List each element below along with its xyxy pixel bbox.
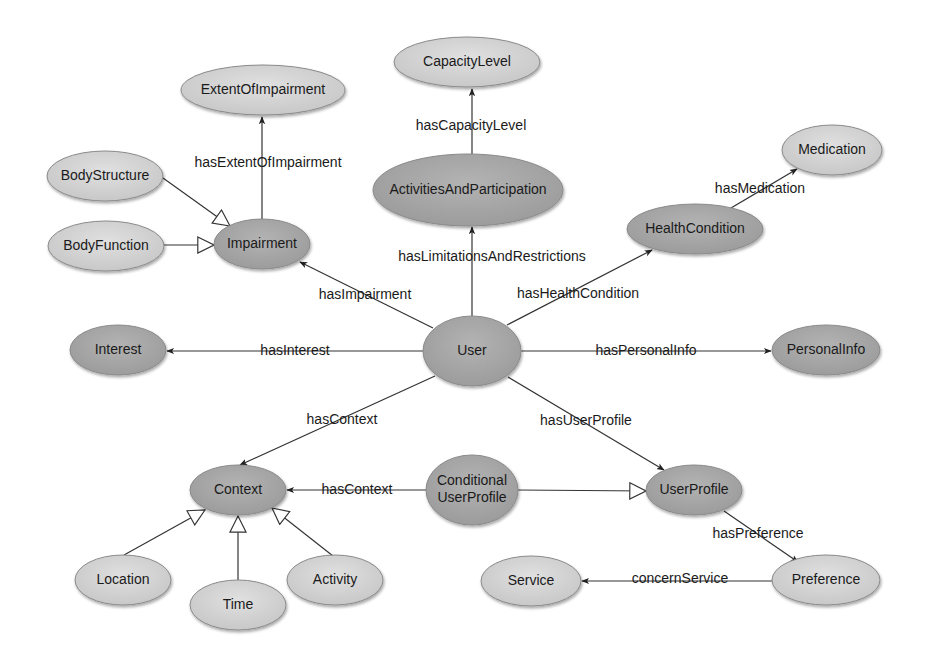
node-label: HealthCondition xyxy=(645,220,745,236)
edge-label: hasMedication xyxy=(715,180,805,196)
node-label: Activity xyxy=(313,571,357,587)
node-label: BodyStructure xyxy=(61,167,150,183)
node-capacity-level[interactable]: CapacityLevel xyxy=(394,37,540,87)
edge-body-structure-to-impairment xyxy=(163,178,230,226)
node-label: Context xyxy=(214,481,262,497)
node-user-profile[interactable]: UserProfile xyxy=(646,465,742,515)
edge-activity-to-context xyxy=(272,508,333,556)
edge-label: hasHealthCondition xyxy=(517,285,639,301)
node-label: Impairment xyxy=(227,235,297,251)
edge-label: hasLimitationsAndRestrictions xyxy=(398,248,586,264)
node-label: UserProfile xyxy=(437,489,506,505)
node-extent-of-impairment[interactable]: ExtentOfImpairment xyxy=(181,65,345,115)
node-label: Service xyxy=(508,572,555,588)
node-user[interactable]: User xyxy=(423,316,521,386)
edge-label: hasCapacityLevel xyxy=(416,117,527,133)
node-label: Location xyxy=(97,571,150,587)
edge-label: hasPreference xyxy=(712,525,803,541)
node-label: Interest xyxy=(95,341,142,357)
node-body-structure[interactable]: BodyStructure xyxy=(47,151,163,201)
edge-label: hasPersonalInfo xyxy=(595,342,696,358)
node-label: ActivitiesAndParticipation xyxy=(389,181,546,197)
node-time[interactable]: Time xyxy=(190,580,286,630)
edge-label: hasInterest xyxy=(260,342,329,358)
node-body-function[interactable]: BodyFunction xyxy=(48,221,164,271)
edge-label: hasContext xyxy=(322,481,393,497)
node-medication[interactable]: Medication xyxy=(782,125,882,175)
edge-user-to-interest: hasInterest xyxy=(167,342,423,358)
edge-conditional-user-profile-to-context: hasContext xyxy=(287,481,426,497)
edge-label: hasUserProfile xyxy=(540,412,632,428)
edge-impairment-to-extent-of-impairment: hasExtentOfImpairment xyxy=(194,117,341,219)
subclass-arrow xyxy=(124,510,205,555)
edge-user-to-activities-and-participation: hasLimitationsAndRestrictions xyxy=(398,227,586,316)
node-label: UserProfile xyxy=(659,481,728,497)
node-label: Conditional xyxy=(437,472,507,488)
edge-user-to-context: hasContext xyxy=(240,376,435,465)
node-label: BodyFunction xyxy=(63,237,149,253)
node-activities-and-participation[interactable]: ActivitiesAndParticipation xyxy=(373,154,563,226)
edge-label: hasContext xyxy=(307,411,378,427)
subclass-arrow xyxy=(272,508,333,556)
node-label: PersonalInfo xyxy=(787,341,866,357)
node-preference[interactable]: Preference xyxy=(772,555,880,605)
edge-label: hasExtentOfImpairment xyxy=(194,154,341,170)
node-location[interactable]: Location xyxy=(75,555,171,605)
node-label: CapacityLevel xyxy=(423,53,511,69)
node-label: Time xyxy=(223,596,254,612)
node-label: Preference xyxy=(792,571,861,587)
node-context[interactable]: Context xyxy=(190,465,286,515)
edge-preference-to-service: concernService xyxy=(582,570,772,586)
edge-user-to-impairment: hasImpairment xyxy=(300,262,433,328)
edge-user-profile-to-preference: hasPreference xyxy=(712,511,803,562)
node-interest[interactable]: Interest xyxy=(70,325,166,375)
node-conditional-user-profile[interactable]: ConditionalUserProfile xyxy=(426,455,518,525)
subclass-arrow xyxy=(163,178,230,226)
node-impairment[interactable]: Impairment xyxy=(214,219,310,269)
node-health-condition[interactable]: HealthCondition xyxy=(627,204,763,254)
subclass-arrow xyxy=(518,490,646,491)
node-service[interactable]: Service xyxy=(481,556,581,606)
edge-label: concernService xyxy=(632,570,729,586)
node-activity[interactable]: Activity xyxy=(287,555,383,605)
edge-health-condition-to-medication: hasMedication xyxy=(715,169,805,208)
edge-activities-and-participation-to-capacity-level: hasCapacityLevel xyxy=(416,89,527,154)
edge-conditional-user-profile-to-user-profile xyxy=(518,490,646,491)
edge-user-to-personal-info: hasPersonalInfo xyxy=(521,342,771,358)
node-personal-info[interactable]: PersonalInfo xyxy=(772,325,880,375)
node-label: ExtentOfImpairment xyxy=(201,81,326,97)
edge-location-to-context xyxy=(124,510,205,555)
edge-label: hasImpairment xyxy=(319,286,412,302)
node-label: Medication xyxy=(798,141,866,157)
edge-user-to-user-profile: hasUserProfile xyxy=(508,377,664,470)
ontology-diagram: hasExtentOfImpairmenthasCapacityLevelhas… xyxy=(0,0,929,663)
node-label: User xyxy=(457,342,487,358)
